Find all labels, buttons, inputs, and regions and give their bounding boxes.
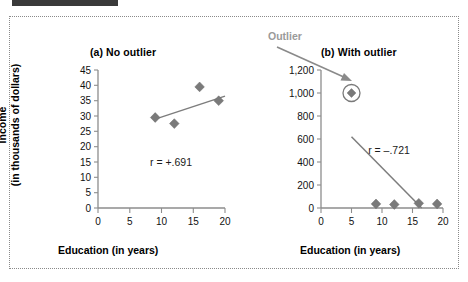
panel-a-ytick-1: 5 (85, 187, 91, 198)
data-point-marker (170, 119, 180, 129)
panel-b-ytick-0: 0 (308, 203, 314, 214)
panel-b-y-tick-labels: 0 200 400 600 800 1,000 1,200 (289, 65, 314, 214)
panel-a-y-tick-labels: 0 5 10 15 20 25 30 35 40 45 (80, 65, 92, 214)
outlier-data-point-marker (347, 89, 356, 98)
data-point-marker (150, 113, 160, 123)
panel-a-ytick-5: 25 (80, 126, 92, 137)
panel-a-ytick-8: 40 (80, 80, 92, 91)
panel-a-xtick-3: 15 (188, 216, 200, 227)
panel-a-ytick-7: 35 (80, 95, 92, 106)
data-point-marker (195, 82, 205, 92)
panel-b-ytick-3: 600 (297, 134, 314, 145)
panel-b-ytick-2: 400 (297, 157, 314, 168)
panel-b-with-outlier: (b) With outlier Education (in years) 0 … (237, 16, 459, 269)
panel-a-xtick-1: 5 (127, 216, 133, 227)
data-point-marker (371, 199, 381, 209)
panel-b-x-ticks (321, 208, 443, 213)
panel-b-r-label: r = –.721 (368, 144, 410, 156)
y-axis-title-line1: Income (0, 60, 9, 190)
panel-a-xtick-4: 20 (219, 216, 231, 227)
panel-a-plot: 0 5 10 15 20 25 30 35 40 45 0 5 (9, 16, 237, 269)
panel-b-x-tick-labels: 0 5 10 15 20 (318, 216, 449, 227)
panel-b-plot: 0 200 400 600 800 1,000 1,200 0 5 10 15 (237, 16, 459, 269)
panel-a-ytick-2: 10 (80, 172, 92, 183)
panel-a-xtick-0: 0 (95, 216, 101, 227)
panel-a-regression-line (155, 96, 225, 119)
panel-a-ytick-4: 20 (80, 141, 92, 152)
panel-b-xtick-4: 20 (437, 216, 449, 227)
panel-b-ytick-6: 1,200 (289, 65, 314, 76)
panel-b-xtick-2: 10 (376, 216, 388, 227)
panel-a-no-outlier: (a) No outlier Education (in years) 0 (9, 16, 237, 269)
panel-a-ytick-3: 15 (80, 157, 92, 168)
panel-b-xtick-3: 15 (407, 216, 419, 227)
panel-a-ytick-0: 0 (85, 203, 91, 214)
panel-b-ytick-4: 800 (297, 111, 314, 122)
data-point-marker (414, 198, 424, 208)
panel-a-ytick-6: 30 (80, 111, 92, 122)
top-rule-bar (12, 0, 118, 6)
outlier-annotation-label: Outlier (268, 30, 302, 42)
panel-a-ytick-9: 45 (80, 65, 92, 76)
figure-root: Income (in thousands of dollars) (a) No … (0, 0, 468, 282)
data-point-marker (432, 199, 442, 209)
panel-b-xtick-1: 5 (349, 216, 355, 227)
outlier-annotation-arrowhead (341, 73, 353, 81)
panel-a-data-points (150, 82, 223, 129)
panel-b-ytick-1: 200 (297, 180, 314, 191)
panel-b-xtick-0: 0 (318, 216, 324, 227)
panel-a-xtick-2: 10 (156, 216, 168, 227)
panel-a-x-tick-labels: 0 5 10 15 20 (95, 216, 231, 227)
panel-a-r-label: r = +.691 (150, 156, 192, 168)
panel-a-x-ticks (98, 208, 225, 213)
panel-b-ytick-5: 1,000 (289, 88, 314, 99)
